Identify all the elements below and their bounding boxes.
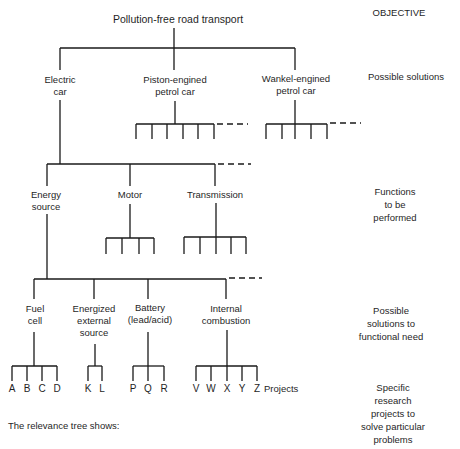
level-objective: OBJECTIVE [373, 6, 426, 19]
function-energy-source: Energy source [31, 189, 61, 213]
energy-solution-fuel-cell: Fuel cell [26, 303, 44, 327]
function-motor: Motor [118, 189, 142, 201]
project-l: L [99, 383, 105, 395]
caption-text: The relevance tree shows: [8, 420, 119, 431]
project-y: Y [239, 383, 246, 395]
project-r: R [160, 383, 167, 395]
level-functional-solutions: Possible solutions to functional need [359, 304, 423, 343]
project-q: Q [144, 383, 152, 395]
projects-label: Projects [264, 383, 298, 394]
energy-solution-internal-combustion: Internal combustion [202, 303, 251, 327]
root-objective: Pollution-free road transport [113, 13, 243, 25]
project-b: B [24, 383, 31, 395]
project-v: V [193, 383, 200, 395]
project-w: W [206, 383, 215, 395]
energy-solution-energized-external: Energized external source [73, 303, 116, 339]
project-x: X [224, 383, 231, 395]
solution-electric-car: Electric car [44, 74, 75, 98]
level-possible-solutions: Possible solutions [368, 70, 444, 83]
project-z: Z [254, 383, 260, 395]
project-d: D [53, 383, 60, 395]
function-transmission: Transmission [187, 189, 243, 201]
project-p: P [130, 383, 137, 395]
project-k: K [85, 383, 92, 395]
level-research-projects: Specific research projects to solve part… [361, 381, 425, 446]
level-functions: Functions to be performed [373, 185, 416, 224]
solution-piston-engined: Piston-engined petrol car [143, 74, 206, 98]
project-a: A [9, 383, 16, 395]
project-c: C [38, 383, 45, 395]
energy-solution-battery: Battery (lead/acid) [128, 302, 172, 326]
solution-wankel-engined: Wankel-engined petrol car [262, 73, 330, 97]
